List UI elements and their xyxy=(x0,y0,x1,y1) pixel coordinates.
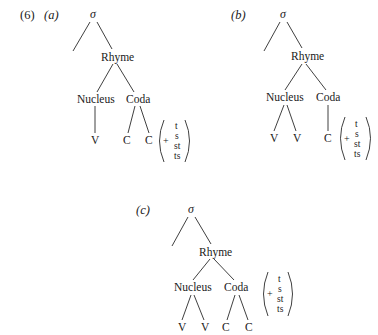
rhyme-branch xyxy=(287,22,302,48)
right-paren xyxy=(366,117,371,160)
c-node-2: C xyxy=(145,134,153,146)
appendix-option: st xyxy=(277,294,284,304)
right-paren xyxy=(288,272,293,316)
appendix-bracket: + t s st ts xyxy=(264,272,293,316)
appendix-option: t xyxy=(175,121,178,131)
appendix-option: ts xyxy=(354,149,361,159)
rhyme-branch xyxy=(195,217,211,244)
v-node-2: V xyxy=(293,132,302,144)
appendix-option: t xyxy=(278,274,281,284)
appendix-bracket: + t s st ts xyxy=(160,120,190,162)
v-branch-1 xyxy=(274,105,284,131)
appendix-option: ts xyxy=(277,304,284,314)
c-branch-2 xyxy=(140,106,149,133)
right-paren xyxy=(185,120,190,162)
tree-label-b: (b) xyxy=(231,8,246,22)
syllable-node: σ xyxy=(188,202,195,216)
rhyme-branch xyxy=(97,22,112,49)
c-branch-2 xyxy=(239,295,248,320)
appendix-option: t xyxy=(355,119,358,129)
rhyme-node: Rhyme xyxy=(101,51,134,64)
c-node-1: C xyxy=(123,134,131,146)
v-node: V xyxy=(91,134,100,146)
coda-node: Coda xyxy=(316,91,340,103)
syllable-node: σ xyxy=(90,7,97,21)
c-branch-1 xyxy=(128,106,135,133)
v-branch-1 xyxy=(182,295,191,320)
v-node-2: V xyxy=(201,321,210,333)
tree-label-c: (c) xyxy=(136,203,150,217)
tree-c: (c) σ Rhyme Nucleus Coda V V C C + t s s… xyxy=(136,202,293,333)
nucleus-branch xyxy=(193,259,210,280)
v-node-1: V xyxy=(178,321,187,333)
rhyme-node: Rhyme xyxy=(291,50,324,63)
onset-branch xyxy=(172,217,188,246)
c-node-2: C xyxy=(245,321,253,333)
appendix-option: st xyxy=(174,141,181,151)
v-node-1: V xyxy=(270,132,279,144)
nucleus-node: Nucleus xyxy=(77,93,115,105)
c-branch-1 xyxy=(227,295,235,320)
coda-branch xyxy=(306,64,326,90)
example-number: (6) xyxy=(20,8,35,22)
coda-branch xyxy=(117,64,134,92)
onset-branch xyxy=(73,22,90,51)
appendix-option: s xyxy=(175,131,179,141)
nucleus-branch xyxy=(285,64,302,90)
tree-b: (b) σ Rhyme Nucleus Coda V V C + t s st … xyxy=(231,7,371,160)
v-branch-2 xyxy=(287,105,296,131)
c-node: C xyxy=(324,132,332,144)
coda-branch xyxy=(214,259,234,280)
v-branch-2 xyxy=(194,295,204,320)
tree-a: (a) σ Rhyme Nucleus Coda V C C + t s st … xyxy=(44,7,190,162)
appendix-option: s xyxy=(278,284,282,294)
plus-sign: + xyxy=(344,133,350,144)
plus-sign: + xyxy=(267,288,273,299)
plus-sign: + xyxy=(163,135,169,146)
appendix-option: s xyxy=(355,129,359,139)
appendix-option: ts xyxy=(174,151,181,161)
rhyme-node: Rhyme xyxy=(199,246,232,259)
appendix-option: st xyxy=(354,139,361,149)
coda-node: Coda xyxy=(126,93,150,105)
tree-label-a: (a) xyxy=(44,8,59,22)
syllable-structure-diagram: (6) (a) σ Rhyme Nucleus Coda V C C + t s… xyxy=(0,0,378,335)
onset-branch xyxy=(264,22,280,51)
coda-node: Coda xyxy=(224,281,248,293)
syllable-node: σ xyxy=(280,7,287,21)
appendix-bracket: + t s st ts xyxy=(341,117,371,160)
nucleus-node: Nucleus xyxy=(174,281,212,293)
c-node-1: C xyxy=(222,321,230,333)
nucleus-node: Nucleus xyxy=(266,91,304,103)
nucleus-branch xyxy=(97,64,113,92)
